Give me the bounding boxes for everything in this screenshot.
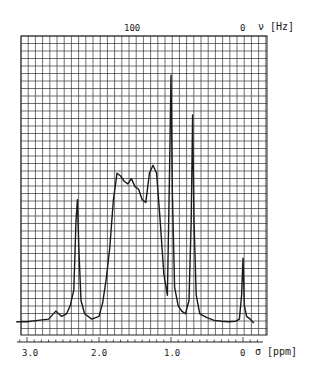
x-axis-ticks xyxy=(20,337,258,342)
bottom-tick-1: 1.0 xyxy=(164,348,180,358)
nmr-spectrum-chart xyxy=(0,0,311,378)
chart-grid xyxy=(21,36,267,335)
bottom-axis-unit-label: σ [ppm] xyxy=(255,347,297,357)
bottom-tick-0: 0 xyxy=(240,348,245,358)
bottom-tick-3: 3.0 xyxy=(22,348,38,358)
top-tick-100: 100 xyxy=(124,23,140,33)
bottom-tick-2: 2.0 xyxy=(91,348,107,358)
top-axis-unit-label: ν [Hz] xyxy=(258,22,294,32)
spectrum-line xyxy=(16,75,254,323)
top-tick-0: 0 xyxy=(240,23,245,33)
